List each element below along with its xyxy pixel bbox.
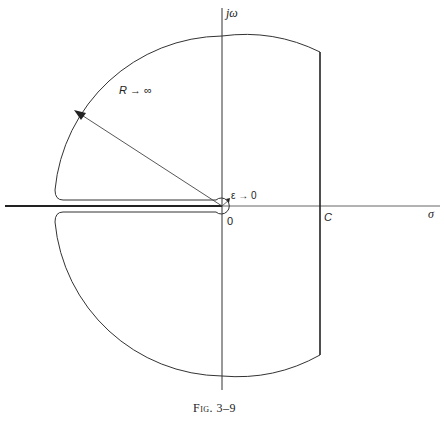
line-c-label: C	[324, 211, 332, 223]
lower-arc	[55, 222, 320, 377]
radius-label: R → ∞	[119, 84, 152, 96]
origin-label: 0	[227, 215, 233, 227]
figure-caption: Fig. 3–9	[193, 401, 236, 416]
upper-keyhole-line	[55, 190, 216, 200]
contour-diagram	[0, 0, 444, 424]
lower-keyhole-line	[55, 212, 216, 222]
radius-arrow	[77, 112, 222, 206]
imaginary-axis-label: jω	[226, 6, 238, 21]
real-axis-label: σ	[428, 207, 434, 222]
upper-arc	[55, 34, 320, 190]
epsilon-label: ε → 0	[231, 190, 257, 201]
radius-arrowhead-icon	[74, 110, 86, 120]
